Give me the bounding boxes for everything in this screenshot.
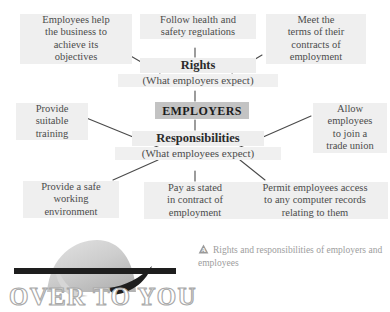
svg-text:A: A bbox=[201, 246, 206, 253]
node-employees-help: Employees help the business to achieve i… bbox=[20, 14, 132, 64]
caption-text: Rights and responsibilities of employers… bbox=[198, 245, 382, 268]
node-pay-as-stated: Pay as stated in contract of employment bbox=[144, 182, 246, 219]
node-permit-records: Permit employees access to any computer … bbox=[242, 182, 388, 219]
triangle-a-icon: A bbox=[198, 244, 209, 254]
center-node-employers: EMPLOYERS bbox=[155, 102, 249, 119]
hub-responsibilities-title: Responsibilities bbox=[132, 131, 264, 146]
node-allow-trade-union: Allow employees to join a trade union bbox=[313, 103, 387, 153]
horizontal-bar bbox=[14, 268, 176, 274]
over-to-you-heading: OVER TO YOU bbox=[9, 283, 199, 311]
connector-safework-responsibilities bbox=[113, 160, 158, 180]
node-meet-terms: Meet the terms of their contracts of emp… bbox=[266, 14, 366, 64]
hub-rights-subtitle: (What employers expect) bbox=[118, 74, 278, 87]
node-follow-health-safety: Follow health and safety regulations bbox=[140, 14, 256, 39]
node-provide-training: Provide suitable training bbox=[16, 103, 88, 140]
hub-responsibilities-subtitle: (What employees expect) bbox=[115, 147, 281, 160]
hub-rights-title: Rights bbox=[140, 58, 256, 73]
node-safe-working: Provide a safe working environment bbox=[23, 181, 119, 218]
mind-map-diagram: Employees help the business to achieve i… bbox=[0, 0, 390, 312]
connector-records-responsibilities bbox=[240, 160, 265, 180]
figure-caption: A Rights and responsibilities of employe… bbox=[198, 244, 383, 270]
